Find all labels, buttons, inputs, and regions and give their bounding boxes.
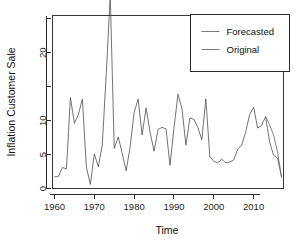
x-tick-label: 1980: [124, 201, 145, 212]
x-tick-label: 1970: [84, 201, 105, 212]
legend-box: [191, 15, 290, 72]
legend-label-forecasted: Forecasted: [227, 26, 275, 37]
y-axis-title: Inflation Customer Sale: [5, 47, 17, 156]
x-axis-ticks: 196019701980199020002010: [44, 195, 264, 212]
x-tick-label: 1960: [44, 201, 65, 212]
x-tick-label: 2000: [203, 201, 224, 212]
chart-figure: 051020 196019701980199020002010 Forecast…: [0, 0, 294, 243]
legend-label-original: Original: [227, 44, 260, 55]
timeseries-chart: 051020 196019701980199020002010 Forecast…: [0, 0, 294, 243]
series-line-forecasted: [266, 117, 282, 177]
x-tick-label: 1990: [163, 201, 184, 212]
x-tick-label: 2010: [243, 201, 264, 212]
chart-legend: ForecastedOriginal: [191, 15, 290, 72]
x-axis-title: Time: [156, 224, 179, 236]
y-axis-ticks: 051020: [37, 19, 51, 191]
